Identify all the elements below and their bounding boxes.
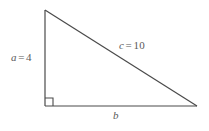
label-leg-b: b (113, 109, 119, 121)
label-hypotenuse-c-value: 10 (134, 39, 145, 51)
right-angle-marker-icon (45, 98, 53, 106)
label-leg-a-value: 4 (26, 51, 32, 63)
hypotenuse-c (45, 10, 197, 106)
label-hypotenuse-c-equals: = (124, 39, 133, 51)
triangle-drawing (0, 0, 209, 131)
right-triangle-figure: a=4 c=10 b (0, 0, 209, 131)
label-leg-b-variable: b (113, 109, 119, 121)
label-leg-a-variable: a (11, 51, 17, 63)
label-leg-a-equals: = (17, 51, 26, 63)
label-hypotenuse-c: c=10 (119, 39, 145, 51)
label-leg-a: a=4 (11, 51, 32, 63)
